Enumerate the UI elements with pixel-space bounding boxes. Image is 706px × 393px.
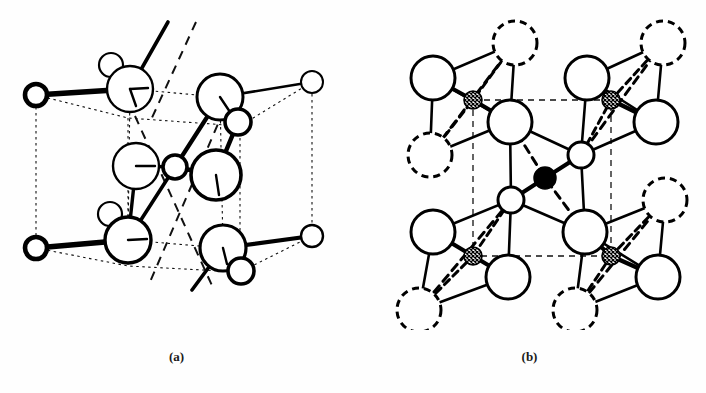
atom-small-hatched	[602, 91, 620, 109]
atom-large-dashed	[397, 288, 441, 330]
atom-small-open-heavy	[225, 109, 251, 135]
atom-large-open	[565, 56, 609, 100]
atom-corner-heavy	[25, 237, 47, 259]
caption-panel-b: (b)	[353, 349, 706, 365]
atom-small-open	[498, 187, 524, 213]
atom-large-dashed	[553, 288, 597, 330]
atom-corner-light	[301, 225, 323, 247]
atom-large-open	[411, 56, 455, 100]
figure-container: (a) (b)	[0, 0, 706, 393]
atom-corner-heavy	[25, 84, 47, 106]
caption-panel-a: (a)	[0, 349, 353, 365]
atom-large-open	[563, 210, 607, 254]
atom-small-open-heavy	[228, 258, 254, 284]
atom-large-dashed	[641, 21, 685, 65]
atom-large-open	[636, 255, 680, 299]
atom-large-open	[486, 255, 530, 299]
panel-a	[0, 0, 353, 330]
atom-large-dashed	[643, 178, 687, 222]
atom-center-small	[163, 155, 187, 179]
panel-b	[353, 0, 706, 330]
atom-large-dashed	[408, 133, 452, 177]
atom-small-hatched	[464, 91, 482, 109]
atom-small-open	[568, 142, 594, 168]
atom-large-open	[411, 210, 455, 254]
atom-small-filled	[534, 167, 556, 189]
panel-b-drawing	[353, 0, 706, 330]
atom-large-dashed	[493, 21, 537, 65]
panel-a-drawing	[0, 0, 353, 330]
atom-small-hatched	[464, 247, 482, 265]
atom-corner-light	[301, 71, 323, 93]
atom-small-hatched	[602, 247, 620, 265]
atom-large-open	[488, 100, 532, 144]
atom-large-open	[634, 100, 678, 144]
